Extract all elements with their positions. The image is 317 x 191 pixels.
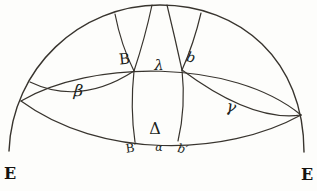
right-lens-lower-arc [182,70,301,116]
label-bottom-right-point: b′ [176,141,189,157]
hand-drawn-dome-diagram: B λ b β γ Δ B′ α b′ E E [0,0,317,191]
diagram-canvas: B λ b β γ Δ B′ α b′ E E [0,0,317,191]
label-center-region: Δ [149,119,161,138]
horizon-arc [21,71,301,115]
left-chord-line [132,71,135,142]
label-top-right-point: b [185,48,197,66]
label-apex-point: λ [153,56,164,74]
label-bottom-center-point: α [155,141,163,154]
label-right-lens-region: γ [224,96,238,117]
label-left-lens-region: β [72,81,84,101]
left-inner-meridian [134,5,152,71]
label-left-end-point: E [4,164,16,183]
right-inner-meridian [167,5,182,70]
label-bottom-left-point: B′ [125,140,139,156]
label-top-left-point: B [118,50,131,69]
label-right-end-point: E [301,165,313,184]
right-chord-line [178,70,183,141]
base-arc [21,101,301,146]
